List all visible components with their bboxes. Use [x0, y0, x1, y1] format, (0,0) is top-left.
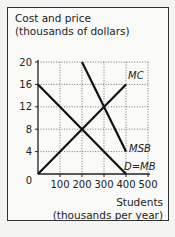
- origin-label: 0: [26, 175, 32, 186]
- series-label-d-mb: D=MB: [124, 161, 156, 172]
- y-tick-label: 12: [19, 101, 32, 112]
- y-tick-label: 20: [19, 57, 32, 68]
- series-lines: [38, 62, 126, 174]
- x-tick-label: 400: [116, 179, 135, 190]
- x-tick-label: 500: [138, 179, 157, 190]
- y-tick-label: 8: [26, 124, 32, 135]
- x-tick-label: 100: [50, 179, 69, 190]
- y-tick-label: 4: [26, 146, 32, 157]
- y-tick-label: 16: [19, 79, 32, 90]
- x-tick-label: 200: [72, 179, 91, 190]
- series-labels: MCMSBD=MB: [124, 70, 156, 172]
- x-axis-title-line1: Students: [53, 196, 163, 209]
- x-tick-label: 300: [94, 179, 113, 190]
- series-label-msb: MSB: [129, 143, 151, 154]
- x-axis-title: Students (thousands per year): [53, 196, 163, 222]
- series-label-mc: MC: [128, 70, 144, 81]
- x-axis-title-line2: (thousands per year): [53, 209, 163, 222]
